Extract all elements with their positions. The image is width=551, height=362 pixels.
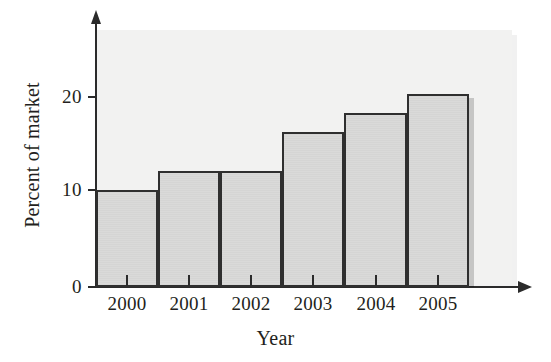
x-tick-label-2003: 2003 [278, 293, 348, 315]
bar-chart-figure: 20 10 0 Percent of market 2000 2001 2002… [0, 0, 551, 362]
x-tick-label-2002: 2002 [216, 293, 286, 315]
y-tick-label-0: 0 [42, 277, 82, 296]
arrow-right-icon [518, 281, 532, 293]
x-tick-center-2003 [312, 275, 314, 286]
x-axis-title: Year [0, 327, 551, 349]
bar-2003[interactable] [282, 132, 344, 287]
x-tick-center-2005 [437, 275, 439, 286]
x-tick-center-2004 [375, 275, 377, 286]
x-tick-center-2000 [126, 275, 128, 286]
bar-2000[interactable] [96, 190, 158, 287]
bar-2004[interactable] [344, 113, 407, 287]
x-tick-label-2001: 2001 [154, 293, 224, 315]
y-tick-label-10: 10 [42, 180, 82, 199]
x-tick-label-2005: 2005 [403, 293, 473, 315]
bars-group [96, 30, 512, 287]
y-tick-label-0-wrap: 0 [22, 277, 82, 297]
bar-2002[interactable] [220, 171, 282, 287]
x-tick-center-2002 [250, 275, 252, 286]
x-tick-label-2000: 2000 [92, 293, 162, 315]
bar-2005[interactable] [407, 94, 469, 287]
y-axis-title: Percent of market [22, 60, 42, 250]
x-tick-center-2001 [188, 275, 190, 286]
bar-2001[interactable] [158, 171, 220, 287]
arrow-up-icon [91, 10, 101, 24]
x-tick-label-2004: 2004 [341, 293, 411, 315]
y-tick-label-20: 20 [42, 87, 82, 106]
